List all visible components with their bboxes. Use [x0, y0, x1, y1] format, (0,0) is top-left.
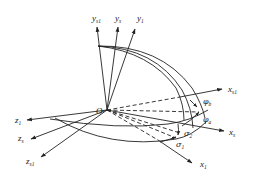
z-axes [27, 110, 107, 157]
x-s1-label: xs1 [227, 84, 237, 95]
labels: O ys1 ys y1 xs1 xs x1 z1 zs zs1 φb φa σ2… [14, 13, 237, 170]
arc-top-3 [98, 46, 193, 128]
y-s-axis [107, 27, 118, 110]
z-s1-label: zs1 [25, 156, 35, 167]
y-s1-label: ys1 [91, 13, 101, 24]
y-s-label: ys [114, 13, 121, 24]
sigma-1-label: σ1 [176, 140, 184, 150]
x-s1-axis-dashed [107, 97, 180, 110]
y-1-axis [107, 29, 135, 110]
z-s-label: zs [17, 133, 24, 144]
x-1-label: x1 [199, 159, 207, 170]
y-s1-axis [97, 27, 107, 110]
phi-b-arrow [190, 100, 197, 107]
x-1-axis [158, 140, 192, 163]
z-1-label: z1 [14, 115, 22, 126]
coordinate-rotation-diagram: O ys1 ys y1 xs1 xs x1 z1 zs zs1 φb φa σ2… [0, 0, 256, 180]
phi-b-label: φb [203, 97, 212, 107]
phi-a-label: φa [203, 115, 212, 125]
sigma-2-label: σ2 [184, 129, 192, 139]
x-s-label: xs [228, 127, 235, 138]
y-axes [97, 27, 135, 110]
sigma-2-arrow [178, 124, 179, 135]
y-1-label: y1 [136, 13, 144, 24]
x-s1-axis [180, 89, 222, 97]
origin-label: O [96, 106, 103, 116]
proj-line-phi-b [107, 110, 199, 112]
arcs [50, 46, 208, 142]
phi-a-arrow [182, 112, 199, 126]
